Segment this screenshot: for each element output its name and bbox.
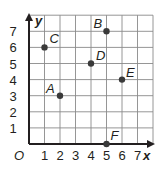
- point-label-a: A: [45, 81, 55, 96]
- y-axis-arrow-icon: [25, 13, 33, 21]
- point-d: [88, 60, 94, 66]
- x-tick-label: 7: [134, 148, 141, 163]
- x-tick-label: 1: [41, 148, 48, 163]
- x-tick-label: 5: [103, 148, 110, 163]
- y-tick-label: 5: [9, 57, 16, 72]
- point-e: [119, 76, 125, 82]
- point-c: [41, 44, 47, 50]
- x-axis-label: x: [142, 148, 151, 163]
- y-tick-label: 2: [9, 105, 16, 120]
- y-tick-label: 6: [9, 40, 16, 55]
- point-label-e: E: [126, 65, 135, 80]
- point-f: [103, 141, 109, 147]
- y-axis-label: y: [34, 13, 43, 28]
- y-tick-label: 1: [9, 121, 16, 136]
- point-label-c: C: [50, 31, 60, 46]
- point-a: [57, 93, 63, 99]
- point-label-b: B: [94, 16, 103, 31]
- x-axis-arrow-icon: [147, 140, 155, 148]
- point-b: [103, 28, 109, 34]
- x-tick-label: 6: [118, 148, 125, 163]
- point-label-d: D: [96, 48, 105, 63]
- coordinate-plane: yxO 12345671234567 ABCDEF: [0, 0, 158, 174]
- y-tick-label: 3: [9, 89, 16, 104]
- origin-label: O: [14, 148, 24, 163]
- y-tick-label: 4: [9, 73, 16, 88]
- point-label-f: F: [111, 128, 120, 143]
- x-tick-label: 4: [87, 148, 94, 163]
- y-tick-label: 7: [9, 24, 16, 39]
- x-tick-label: 2: [56, 148, 63, 163]
- axes: yxO: [14, 13, 155, 163]
- x-tick-label: 3: [72, 148, 79, 163]
